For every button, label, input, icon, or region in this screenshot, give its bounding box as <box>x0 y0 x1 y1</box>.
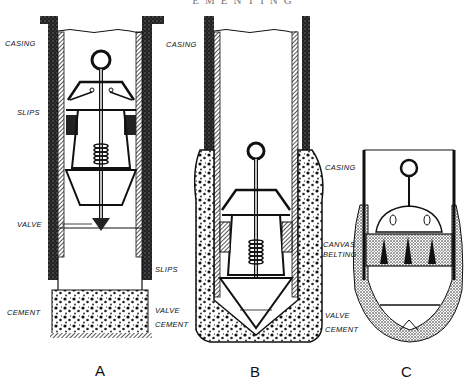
label-a-slips: SLIPS <box>17 108 40 117</box>
label-b-casing: CASING <box>166 40 197 49</box>
figure-a <box>40 16 164 338</box>
label-c-cement: CEMENT <box>325 325 358 334</box>
label-a-cement: CEMENT <box>7 308 40 317</box>
label-c-canvas: CANVAS <box>323 240 355 249</box>
figure-b <box>195 16 323 342</box>
label-b-valve: VALVE <box>155 306 180 315</box>
label-c-valve: VALVE <box>325 311 350 320</box>
label-a-casing: CASING <box>5 39 36 48</box>
label-c-belting: BELTING <box>323 250 357 259</box>
label-a-valve: VALVE <box>17 220 42 229</box>
figure-c <box>353 150 462 342</box>
label-b-slips: SLIPS <box>155 265 178 274</box>
label-c-casing: CASING <box>325 163 356 172</box>
caption-b: B <box>250 363 260 380</box>
label-b-cement: CEMENT <box>155 320 188 329</box>
cementing-plug-diagram: EMENTING <box>0 0 469 387</box>
caption-c: C <box>401 363 412 380</box>
caption-a: A <box>95 362 105 379</box>
